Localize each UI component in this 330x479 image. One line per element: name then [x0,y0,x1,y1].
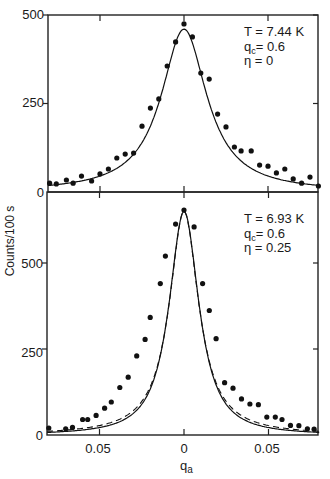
top-ytick-0: 0 [37,185,44,200]
data-point [232,144,237,149]
data-point [158,281,163,286]
xtick-pos-0.05: 0.05 [254,441,279,456]
data-point [80,417,85,422]
data-point [71,181,76,186]
data-point [64,177,69,182]
y-axis-label: Counts/100 s [3,206,17,277]
data-point [89,178,94,183]
top-ytick-250: 250 [22,95,44,110]
data-point [126,375,131,380]
data-point [198,71,203,76]
data-point [181,207,186,212]
data-point [190,34,195,39]
data-point [97,171,102,176]
data-point [131,151,136,156]
data-point [46,426,51,431]
data-point [47,181,52,186]
data-point [94,413,99,418]
data-point [156,96,161,101]
data-point [106,166,111,171]
data-point [173,39,178,44]
data-point [288,423,293,428]
data-point [143,337,148,342]
xtick-0: 0 [180,441,187,456]
data-point [239,396,244,401]
data-point [181,21,186,26]
data-point [148,106,153,111]
x-axis-label: qa [180,458,193,475]
data-point [222,380,227,385]
data-point [85,417,90,422]
data-point [117,385,122,390]
data-point [223,124,228,129]
data-point [54,181,59,186]
data-point [163,254,168,259]
data-point [114,155,119,160]
data-point [70,425,75,430]
bottom-ytick-0: 0 [36,428,43,443]
data-point [249,148,254,153]
data-point [148,315,153,320]
bottom-annotation-eta: η = 0.25 [244,240,291,255]
data-point [139,124,144,129]
top-ytick-500: 500 [22,7,44,22]
data-point [282,166,287,171]
data-point [192,224,197,229]
data-point [247,401,252,406]
data-point [134,353,139,358]
data-point [265,164,270,169]
data-point [215,112,220,117]
data-point [296,423,301,428]
data-point [257,163,262,168]
bottom-ytick-500: 500 [21,256,43,271]
data-point [214,336,219,341]
data-point [239,148,244,153]
data-point [123,152,128,157]
data-point [79,174,84,179]
data-point [207,77,212,82]
top-annotation-eta: η = 0 [244,53,273,68]
data-point [312,427,317,432]
data-point [299,181,304,186]
data-point [274,170,279,175]
data-point [207,308,212,313]
bottom-ytick-250: 250 [21,345,43,360]
xtick-neg-0.05: 0.05 [85,441,110,456]
data-point [264,415,269,420]
data-point [279,417,284,422]
data-point [109,399,114,404]
data-point [316,183,321,188]
two-panel-scattering-chart: 500 250 0 500 250 0 0.05 0 0.05 qa Count… [0,0,330,479]
data-point [63,426,68,431]
data-point [173,222,178,227]
data-point [256,402,261,407]
data-point [273,415,278,420]
data-point [291,176,296,181]
data-point [230,386,235,391]
data-point [200,281,205,286]
data-point [307,175,312,180]
bottom-annotation-temperature: T = 6.93 K [244,211,304,226]
data-point [165,63,170,68]
data-point [102,406,107,411]
data-point [305,426,310,431]
figure: 500 250 0 500 250 0 0.05 0 0.05 qa Count… [0,0,330,479]
bottom-annotation: T = 6.93 K qc= 0.6 η = 0.25 [244,211,304,255]
top-annotation: T = 7.44 K qc= 0.6 η = 0 [244,24,304,68]
top-annotation-temperature: T = 7.44 K [244,24,304,39]
